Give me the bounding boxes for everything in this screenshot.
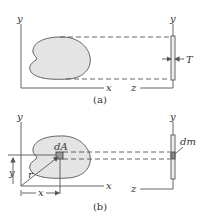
plate-area-shape-a [30,37,91,79]
moment-of-inertia-figure: y x z y T (a) y x dA [0,0,203,219]
z-label-b: z [130,183,137,194]
mass-element-leader [175,147,183,154]
y-label-right-b: y [169,111,176,122]
y-dimension-label: y [8,167,15,178]
area-element-label: dA [54,141,68,152]
y-label-left-a: y [16,13,23,24]
figure-b: y x dA r y x z y dm (b) [8,111,196,212]
y-label-right-a: y [169,13,176,24]
mass-element-dm [171,152,175,159]
x-label-a: x [106,82,112,93]
z-label-a: z [130,82,137,93]
y-label-left-b: y [16,111,23,122]
caption-b: (b) [93,201,107,212]
mass-element-label: dm [180,136,196,147]
thickness-label: T [186,54,194,65]
x-dimension-label: x [38,187,44,198]
x-label-b: x [106,180,112,191]
figure-a: y x z y T (a) [16,13,194,105]
caption-a: (a) [93,94,107,105]
thin-plate-edge-a [171,36,175,80]
